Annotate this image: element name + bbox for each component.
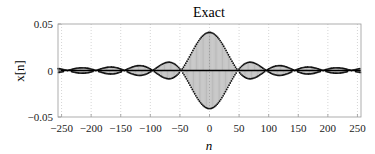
x-tick-label: 250 [349,122,366,134]
x-tick-label: −200 [80,122,103,134]
x-tick-label: 100 [260,122,277,134]
y-axis-ticks: −0.0500.05 [28,18,61,123]
x-tick-label: −250 [50,122,73,134]
stem-chart: Exact −250−200−150−100−50050100150200250… [0,0,375,154]
y-tick-label: −0.05 [28,111,54,123]
x-tick-label: 0 [207,122,213,134]
x-tick-label: 200 [320,122,337,134]
chart-title: Exact [193,5,225,20]
x-tick-label: 50 [234,122,246,134]
x-tick-label: 150 [290,122,307,134]
x-axis-label: n [206,138,213,153]
x-tick-label: −100 [139,122,162,134]
x-tick-label: −150 [109,122,132,134]
x-tick-label: −50 [171,122,189,134]
y-axis-label: x[n] [12,60,27,82]
y-tick-label: 0 [48,65,54,77]
y-tick-label: 0.05 [34,18,54,30]
